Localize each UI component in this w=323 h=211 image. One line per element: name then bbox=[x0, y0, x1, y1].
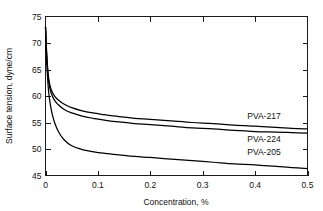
y-tick-label-2: 55 bbox=[32, 118, 42, 128]
y-tick-label-5: 70 bbox=[32, 38, 42, 48]
series-label-pva-217: PVA-217 bbox=[247, 111, 281, 121]
y-tick-label-0: 45 bbox=[32, 171, 42, 181]
y-axis-tick-labels: 45505560657075 bbox=[32, 12, 42, 181]
y-tick-label-4: 65 bbox=[32, 65, 42, 75]
y-tick-label-3: 60 bbox=[32, 91, 42, 101]
x-tick-label-3: 0.3 bbox=[197, 180, 209, 190]
x-tick-label-5: 0.5 bbox=[302, 180, 314, 190]
y-tick-label-6: 75 bbox=[32, 12, 42, 22]
x-tick-label-2: 0.2 bbox=[144, 180, 156, 190]
x-axis-tick-labels: 00.10.20.30.40.5 bbox=[43, 180, 314, 190]
chart-figure: 45505560657075 00.10.20.30.40.5 PVA-217P… bbox=[0, 0, 323, 211]
y-tick-label-1: 50 bbox=[32, 144, 42, 154]
chart-plot-area: 45505560657075 00.10.20.30.40.5 PVA-217P… bbox=[0, 0, 323, 211]
x-tick-label-4: 0.4 bbox=[249, 180, 261, 190]
x-tick-label-1: 0.1 bbox=[92, 180, 104, 190]
x-tick-label-0: 0 bbox=[43, 180, 48, 190]
series-inline-labels: PVA-217PVA-224PVA-205 bbox=[247, 111, 281, 157]
y-axis-title: Surface tension, dyne/cm bbox=[4, 48, 14, 144]
x-axis-title: Concentration, % bbox=[143, 197, 209, 207]
series-label-pva-224: PVA-224 bbox=[247, 134, 281, 144]
series-label-pva-205: PVA-205 bbox=[247, 147, 281, 157]
